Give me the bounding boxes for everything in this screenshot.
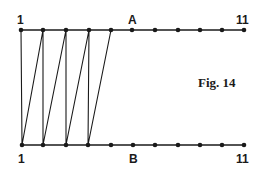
bottom-point-6 (131, 143, 136, 148)
top-point-2 (41, 28, 46, 33)
zigzag-thread (21, 30, 111, 145)
figure-caption: Fig. 14 (198, 75, 236, 90)
top-point-7 (153, 28, 158, 33)
bottom-point-9 (198, 143, 203, 148)
top-point-3 (64, 28, 69, 33)
bottom-point-4 (86, 143, 91, 148)
fig-14-diagram: 1 A 11 1 B 11 Fig. 14 (0, 0, 260, 174)
top-point-8 (176, 28, 181, 33)
top-point-9 (198, 28, 203, 33)
top-point-11 (242, 28, 247, 33)
top-label-start: 1 (17, 13, 24, 27)
bottom-point-3 (64, 143, 69, 148)
bottom-point-8 (176, 143, 181, 148)
bottom-point-1 (20, 143, 25, 148)
bottom-point-5 (109, 143, 114, 148)
bottom-label-start: 1 (18, 152, 25, 166)
bottom-label-b: B (129, 152, 138, 166)
top-point-6 (130, 28, 135, 33)
bottom-point-2 (41, 143, 46, 148)
top-point-10 (220, 28, 225, 33)
top-point-1 (19, 28, 24, 33)
top-label-a: A (128, 13, 137, 27)
top-point-4 (87, 28, 92, 33)
bottom-point-10 (220, 143, 225, 148)
bottom-label-end: 11 (236, 152, 249, 166)
top-label-end: 11 (236, 13, 249, 27)
bottom-point-11 (242, 143, 247, 148)
bottom-point-7 (153, 143, 158, 148)
top-point-5 (109, 28, 114, 33)
